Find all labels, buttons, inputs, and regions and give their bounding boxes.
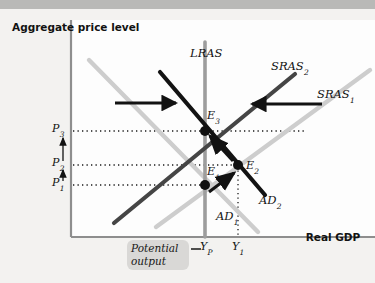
y-tick-label-p3: P3	[52, 123, 64, 137]
curve-label-ad1: AD1	[216, 210, 238, 225]
point-label-e1: E1	[207, 166, 220, 180]
potential-output-callout: Potential output	[131, 242, 178, 269]
y-tick-label-p1: P1	[52, 177, 64, 191]
arrow-e2-to-e3	[210, 136, 233, 161]
curve-label-ad2: AD2	[259, 194, 281, 209]
economics-diagram: Aggregate price level Real GDP LRAS SRAS…	[0, 0, 375, 283]
x-tick-label-y1: Y1	[232, 241, 244, 255]
point-e2-dot	[233, 160, 243, 170]
curve-label-sras2: SRAS2	[271, 60, 309, 75]
curve-label-lras: LRAS	[190, 47, 222, 62]
y-tick-label-p2: P2	[52, 157, 64, 171]
x-tick-label-yp: YP	[200, 241, 212, 255]
y-axis-title: Aggregate price level	[12, 22, 68, 33]
potential-output-line2: output	[131, 255, 178, 268]
point-e1-dot	[200, 180, 210, 190]
potential-output-line1: Potential	[131, 242, 178, 255]
point-label-e2: E2	[246, 160, 259, 174]
x-axis-title: Real GDP	[300, 232, 366, 243]
curve-label-sras1: SRAS1	[317, 88, 355, 103]
point-label-e3: E3	[207, 110, 220, 124]
point-e3-dot	[200, 126, 210, 136]
